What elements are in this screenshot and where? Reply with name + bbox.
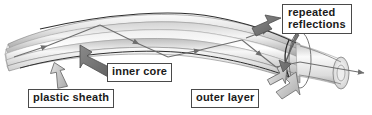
fibre-optic-diagram: plastic sheath inner core outer layer re… xyxy=(0,0,372,115)
label-outer-layer: outer layer xyxy=(191,89,259,108)
label-inner-core: inner core xyxy=(107,63,172,82)
label-repeated-reflections: repeated reflections xyxy=(282,4,352,34)
label-repeated-reflections-line1: repeated xyxy=(288,7,346,19)
pointer-plastic-sheath xyxy=(48,61,68,90)
label-plastic-sheath: plastic sheath xyxy=(28,89,114,108)
label-repeated-reflections-line2: reflections xyxy=(288,19,346,31)
